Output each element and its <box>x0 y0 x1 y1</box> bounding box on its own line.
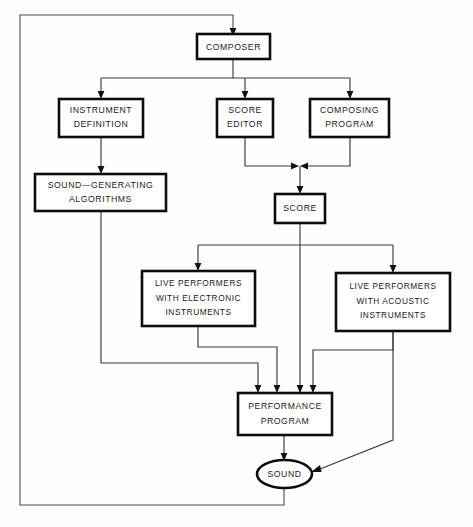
node-sound[interactable]: SOUND <box>257 460 312 488</box>
flowchart-canvas: COMPOSER INSTRUMENT DEFINITION SCORE EDI… <box>0 0 473 527</box>
arrowhead-junction-right <box>300 163 308 170</box>
node-instrument-definition-label-2: DEFINITION <box>74 119 129 129</box>
node-composer[interactable]: COMPOSER <box>197 34 270 59</box>
node-live-performers-electronic[interactable]: LIVE PERFORMERS WITH ELECTRONIC INSTRUME… <box>142 271 255 326</box>
edge-layer <box>20 15 396 505</box>
node-live-performers-electronic-label-3: INSTRUMENTS <box>166 307 232 317</box>
node-sound-generating-algorithms[interactable]: SOUND—GENERATING ALGORITHMS <box>35 174 166 211</box>
node-live-performers-acoustic-label-1: LIVE PERFORMERS <box>349 281 436 291</box>
node-live-performers-acoustic-label-2: WITH ACOUSTIC <box>356 296 429 306</box>
node-composing-program[interactable]: COMPOSING PROGRAM <box>310 99 389 137</box>
node-score[interactable]: SCORE <box>275 194 325 223</box>
node-performance-program-box[interactable] <box>238 393 332 435</box>
node-instrument-definition-label-1: INSTRUMENT <box>70 105 133 115</box>
arrowhead-junction-left <box>291 163 299 170</box>
node-composing-program-label-2: PROGRAM <box>325 119 374 129</box>
edge-acoustic-to-performance <box>313 331 393 385</box>
node-composer-label: COMPOSER <box>206 42 261 52</box>
node-live-performers-acoustic[interactable]: LIVE PERFORMERS WITH ACOUSTIC INSTRUMENT… <box>336 273 450 331</box>
edge-electronic-to-performance <box>198 326 277 385</box>
node-layer: COMPOSER INSTRUMENT DEFINITION SCORE EDI… <box>35 34 450 488</box>
node-sound-generating-algorithms-label-1: SOUND—GENERATING <box>48 180 154 190</box>
node-composing-program-label-1: COMPOSING <box>320 105 379 115</box>
flowchart-diagram: COMPOSER INSTRUMENT DEFINITION SCORE EDI… <box>0 0 473 527</box>
edge-composing-to-junction <box>306 137 350 166</box>
node-live-performers-electronic-label-2: WITH ELECTRONIC <box>156 293 241 303</box>
node-sound-label: SOUND <box>267 469 301 479</box>
node-score-editor-label-1: SCORE <box>228 105 262 115</box>
node-score-label: SCORE <box>283 203 317 213</box>
node-instrument-definition[interactable]: INSTRUMENT DEFINITION <box>59 99 143 137</box>
node-score-editor[interactable]: SCORE EDITOR <box>217 99 273 137</box>
node-live-performers-electronic-label-1: LIVE PERFORMERS <box>155 278 242 288</box>
node-live-performers-acoustic-label-3: INSTRUMENTS <box>360 310 426 320</box>
node-performance-program[interactable]: PERFORMANCE PROGRAM <box>238 393 332 435</box>
node-performance-program-label-1: PERFORMANCE <box>248 401 322 411</box>
node-sound-generating-algorithms-label-2: ALGORITHMS <box>69 194 132 204</box>
node-performance-program-label-2: PROGRAM <box>261 416 310 426</box>
edge-scoreeditor-to-junction <box>245 137 293 166</box>
node-score-editor-label-2: EDITOR <box>227 119 263 129</box>
